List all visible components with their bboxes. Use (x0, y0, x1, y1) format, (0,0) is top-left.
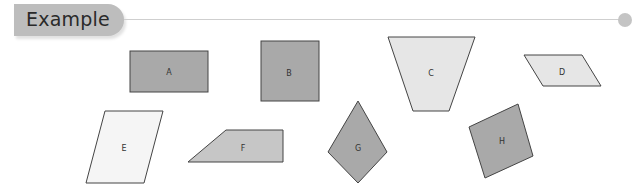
shape-e-label: E (121, 144, 126, 153)
shape-c-label: C (428, 69, 434, 78)
shape-f-label: F (241, 144, 246, 153)
shapes-canvas: A B C D E F G H (0, 0, 634, 186)
shape-b: B (261, 41, 319, 101)
shape-g: G (328, 101, 387, 183)
shape-d: D (524, 55, 601, 86)
shape-f: F (188, 130, 283, 162)
shape-a: A (130, 51, 208, 92)
shape-g-label: G (355, 144, 361, 153)
shape-h: H (469, 104, 533, 178)
shape-c: C (388, 37, 475, 111)
shape-b-label: B (286, 69, 292, 78)
shape-d-label: D (559, 68, 565, 77)
shape-e: E (86, 111, 163, 183)
shape-h-label: H (499, 137, 505, 146)
shape-a-label: A (166, 68, 172, 77)
